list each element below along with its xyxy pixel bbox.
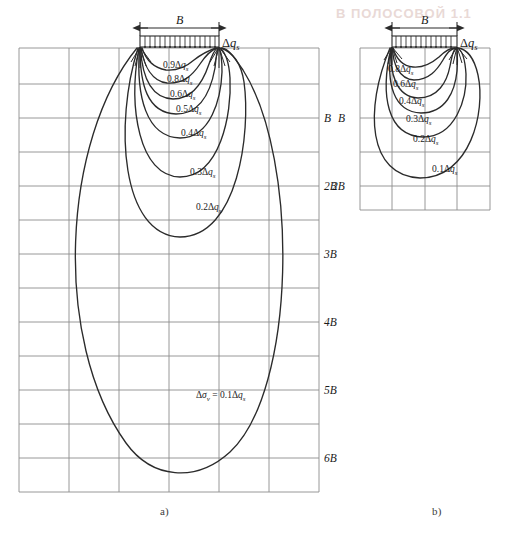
panel-a-depth-4B: 4B xyxy=(324,316,337,328)
panel-b-depth-labels: B 2B xyxy=(332,112,345,192)
panel-a-grid xyxy=(19,48,319,492)
panel-a-label-0.2: 0.2Δqs xyxy=(196,202,222,215)
panel-a-label-0.8: 0.8Δqs xyxy=(167,74,193,87)
panel-b-label-0.6: 0.6Δqs xyxy=(393,79,419,92)
panel-a-label-0.3: 0.3Δqs xyxy=(190,167,216,180)
pressure-bulb-figure: B Δqs xyxy=(0,0,508,542)
panel-a-width-label: B xyxy=(176,13,184,27)
panel-a-label-0.5: 0.5Δqs xyxy=(176,104,202,117)
panel-a-depth-6B: 6B xyxy=(324,452,337,464)
panel-b-width-dimension: B xyxy=(392,13,457,36)
panel-a-width-dimension: B xyxy=(140,13,219,36)
panel-b-grid xyxy=(360,48,490,210)
panel-a-depth-3B: 3B xyxy=(323,248,337,260)
panel-b-label-0.2: 0.2Δqs xyxy=(413,134,439,147)
panel-a-depth-labels: B 2B 3B 4B 5B 6B xyxy=(323,112,337,464)
panel-b-caption: b) xyxy=(432,505,442,517)
panel-b-width-label: B xyxy=(421,13,429,27)
panel-b-depth-B: B xyxy=(338,112,345,124)
panel-a-depth-B: B xyxy=(324,112,331,124)
panel-b-contour-labels: 0.8Δqs 0.6Δqs 0.4Δqs 0.3Δqs 0.2Δqs 0.1Δq… xyxy=(388,64,458,177)
panel-b-load-strip: Δqs xyxy=(392,36,478,52)
panel-b-label-0.1: 0.1Δqs xyxy=(432,164,458,177)
panel-a-depth-5B: 5B xyxy=(324,384,337,396)
panel-a-label-0.4: 0.4Δqs xyxy=(181,128,207,141)
panel-b-label-0.3: 0.3Δqs xyxy=(406,114,432,127)
panel-a-caption: a) xyxy=(160,505,169,517)
panel-a-label-0.1: Δσv = 0.1Δqs xyxy=(196,390,246,403)
panel-b-depth-2B: 2B xyxy=(332,180,345,192)
panel-a-contour-labels: 0.9Δqs 0.8Δqs 0.6Δqs 0.5Δqs 0.4Δqs 0.3Δq… xyxy=(163,60,246,403)
figure-stage: В ПОЛОСОВОЙ 1.1 xyxy=(0,0,508,542)
